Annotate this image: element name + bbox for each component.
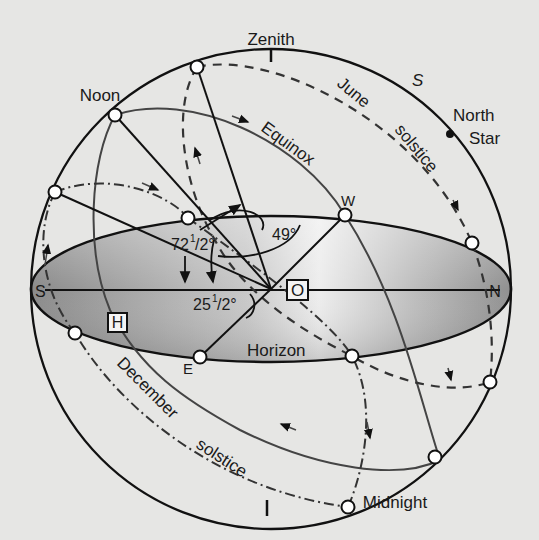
svg-text:/2°: /2°: [195, 236, 215, 253]
west-label: W: [341, 192, 356, 209]
midnight-label: Midnight: [363, 493, 428, 512]
june-label: June: [333, 74, 373, 112]
horizon-box: H: [108, 313, 127, 332]
svg-text:H: H: [112, 314, 124, 331]
horizon-label: Horizon: [247, 341, 306, 360]
june-solstice-label: solstice: [391, 120, 442, 176]
north-star-label-line1: North: [453, 106, 495, 125]
north-star-label-line2: Star: [469, 129, 501, 148]
observer-box: O: [287, 280, 308, 300]
svg-text:O: O: [291, 281, 304, 300]
angle-49-label: 49°: [272, 226, 296, 243]
svg-text:72: 72: [171, 236, 189, 253]
equinox-label: Equinox: [258, 118, 319, 170]
svg-text:/2°: /2°: [217, 296, 237, 313]
east-label: E: [183, 360, 193, 377]
noon-label: Noon: [80, 86, 121, 105]
svg-text:25: 25: [193, 296, 211, 313]
south-label: S: [35, 283, 46, 300]
zenith-label: Zenith: [247, 30, 294, 49]
s-italic-label: S: [412, 71, 424, 90]
north-label: N: [489, 283, 501, 300]
north-star-dot: [446, 130, 454, 138]
december-solstice-label: solstice: [193, 434, 251, 481]
celestial-sphere-diagram: O H Zenith Noon Midnight Equinox June so…: [0, 0, 539, 540]
